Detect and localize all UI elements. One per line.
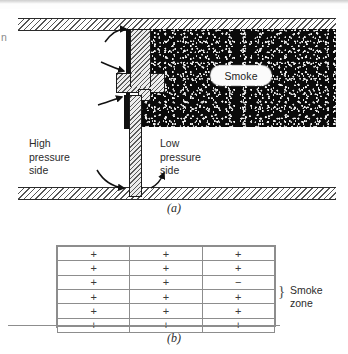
pressure-grid-cell: + bbox=[58, 304, 130, 318]
pressure-grid-cell: + bbox=[202, 304, 274, 318]
pressure-grid-cell: + bbox=[202, 247, 274, 261]
pressure-grid-row: +++ bbox=[58, 304, 275, 318]
door-latch-opening bbox=[130, 73, 151, 87]
panel-b-zone-grid-diagram: ++++++++−+++++++++ } Smoke zone bbox=[0, 240, 348, 330]
pressure-grid-row: ++− bbox=[58, 275, 275, 289]
pressure-grid-body: ++++++++−+++++++++ bbox=[58, 247, 275, 333]
pressure-grid-cell: + bbox=[58, 289, 130, 303]
panel-a-caption: (a) bbox=[0, 201, 348, 216]
high-pressure-line-1: High bbox=[29, 137, 70, 151]
panel-a-door-section-diagram: Smoke High pressure side Low pressure si… bbox=[0, 9, 348, 205]
panel-b-caption: (b) bbox=[0, 331, 348, 346]
smoke-zone-brace-icon: } bbox=[278, 284, 285, 298]
pressure-grid-cell: + bbox=[130, 275, 202, 289]
smoke-label-pill: Smoke bbox=[211, 66, 271, 85]
low-pressure-line-3: side bbox=[160, 164, 201, 178]
pressure-grid-cell: + bbox=[130, 289, 202, 303]
pressure-grid-cell: + bbox=[202, 289, 274, 303]
pressure-grid-row: +++ bbox=[58, 261, 275, 275]
low-pressure-side-label: Low pressure side bbox=[160, 137, 201, 178]
high-pressure-line-3: side bbox=[29, 164, 70, 178]
high-pressure-side-label: High pressure side bbox=[29, 137, 70, 178]
pressure-grid-cell: + bbox=[58, 275, 130, 289]
floor-hatched-wall bbox=[18, 187, 336, 200]
pressure-grid-row: +++ bbox=[58, 289, 275, 303]
pressure-grid-cell: + bbox=[130, 261, 202, 275]
smoke-zone-line-1: Smoke bbox=[290, 284, 323, 297]
pressure-grid-cell: + bbox=[58, 261, 130, 275]
pressure-grid-cell: + bbox=[130, 304, 202, 318]
pressure-difference-grid: ++++++++−+++++++++ bbox=[56, 245, 276, 327]
pressure-grid-cell: + bbox=[202, 261, 274, 275]
pressure-grid-row: +++ bbox=[58, 247, 275, 261]
smoke-label-text: Smoke bbox=[224, 70, 257, 82]
low-pressure-line-1: Low bbox=[160, 137, 201, 151]
smoke-region-edge-mask bbox=[138, 127, 336, 133]
door-leaf-section bbox=[129, 95, 142, 197]
pressure-grid-cell: − bbox=[202, 275, 274, 289]
low-pressure-line-2: pressure bbox=[160, 151, 201, 165]
smoke-zone-line-2: zone bbox=[290, 297, 323, 310]
smoke-zone-label: Smoke zone bbox=[290, 284, 323, 310]
pressure-grid-cell: + bbox=[130, 247, 202, 261]
grid-left-stub bbox=[56, 325, 57, 328]
grid-ground-baseline bbox=[8, 325, 280, 326]
pressure-grid-table: ++++++++−+++++++++ bbox=[57, 246, 275, 333]
pressure-grid-cell: + bbox=[58, 247, 130, 261]
high-pressure-line-2: pressure bbox=[29, 151, 70, 165]
